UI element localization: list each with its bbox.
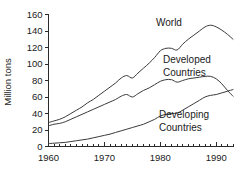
world-annotation-label: World [156,17,182,28]
y-tick-label-0: 0 [37,141,42,152]
x-tick-label-1970: 1970 [94,152,115,163]
chart-figure: 020406080100120140160 1960197019801990 M… [0,0,245,176]
y-tick-label-140: 140 [27,25,43,36]
series-lines [49,25,234,143]
y-axis-title: Million tons [2,58,13,106]
y-tick-label-80: 80 [32,75,43,86]
y-axis-tick-labels: 020406080100120140160 [27,9,43,152]
x-tick-label-1980: 1980 [150,152,171,163]
y-tick-label-120: 120 [27,42,43,53]
developing-annotation-label-line1: Developing [159,109,209,120]
developing-annotation-label-line2: Countries [159,122,202,133]
developed-annotation-label-line1: Developed [163,54,211,65]
series-annotations: World Developed Countries Developing Cou… [156,17,211,133]
x-tick-label-1990: 1990 [206,152,227,163]
y-axis-title-group: Million tons [2,58,13,106]
x-axis-tick-labels: 1960197019801990 [38,152,227,163]
y-tick-label-100: 100 [27,58,43,69]
line-chart-canvas: 020406080100120140160 1960197019801990 M… [0,0,245,176]
y-tick-label-60: 60 [32,91,43,102]
x-tick-label-1960: 1960 [38,152,59,163]
axes-group [49,15,234,147]
developed-annotation-label-line2: Countries [163,67,206,78]
y-tick-label-40: 40 [32,108,43,119]
y-tick-label-20: 20 [32,124,43,135]
y-tick-label-160: 160 [27,9,43,20]
y-axis-ticks [45,15,49,147]
x-axis-ticks [49,142,234,147]
